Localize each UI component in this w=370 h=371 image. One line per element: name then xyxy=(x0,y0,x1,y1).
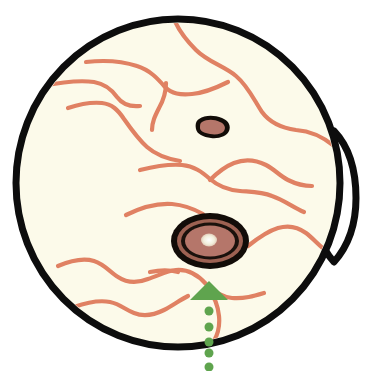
arrow-trail-dot xyxy=(205,323,214,332)
macular-lesion-center-spot xyxy=(201,234,217,247)
macular-lesion-group xyxy=(171,213,249,269)
arrow-trail-dot xyxy=(205,338,214,347)
arrow-trail-dot xyxy=(205,349,214,358)
fundus-diagram-container: Fundus diagram with macular lesion and g… xyxy=(0,0,370,371)
vessel-macula-left-feed xyxy=(150,271,178,273)
fundus-diagram-svg: Fundus diagram with macular lesion and g… xyxy=(0,0,370,371)
arrow-trail-dot xyxy=(205,307,214,316)
